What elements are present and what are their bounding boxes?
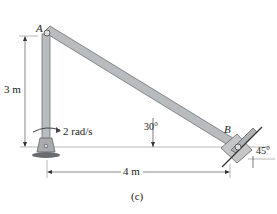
figure-caption: (c): [131, 190, 144, 203]
label-angle-30: 30°: [144, 121, 158, 132]
arrow-left-icon: [47, 170, 52, 174]
label-a: A: [35, 22, 43, 34]
height-dimension: [19, 36, 38, 147]
rotation-arrow-icon: [56, 127, 61, 133]
pin-icon: [44, 144, 48, 148]
vertical-link: [42, 34, 50, 142]
pin-a-icon: [44, 30, 50, 36]
angle-45-marker: [248, 156, 275, 168]
ground-icon: [32, 152, 60, 158]
label-angle-45: 45°: [256, 145, 270, 156]
arrow-up-icon: [23, 36, 27, 41]
label-angular-velocity: 2 rad/s: [63, 125, 93, 137]
label-b: B: [224, 123, 231, 135]
label-height: 3 m: [4, 83, 21, 95]
arrow-right-icon: [225, 170, 230, 174]
pivot-support: [32, 138, 60, 158]
pin-b-icon: [235, 144, 241, 150]
mechanism-diagram: A B 3 m 4 m 30° 45° 2 rad/s (c): [0, 0, 277, 214]
arrow-down-icon: [23, 142, 27, 147]
label-width: 4 m: [123, 165, 140, 177]
